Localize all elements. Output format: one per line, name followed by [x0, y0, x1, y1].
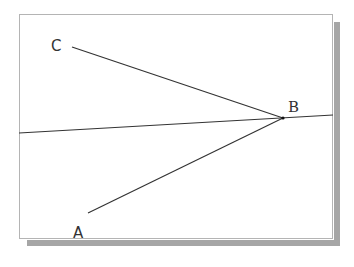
label-a: A	[73, 224, 84, 242]
segment-ab	[88, 118, 283, 213]
vertex-b-point	[281, 116, 284, 119]
label-b: B	[288, 98, 299, 116]
segment-cb	[72, 47, 283, 118]
line-through-b	[19, 115, 333, 133]
geometry-diagram: C B A	[0, 0, 354, 267]
label-c: C	[51, 37, 61, 55]
